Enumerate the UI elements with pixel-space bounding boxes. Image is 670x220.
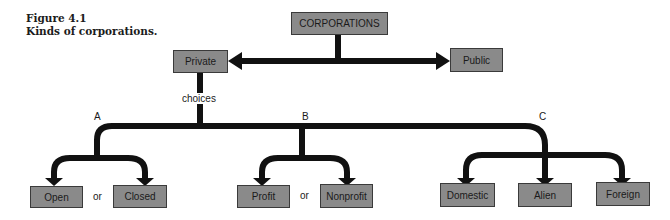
node-label: Alien [534,190,556,201]
label-branch-a: A [94,111,101,122]
node-nonprofit: Nonprofit [320,184,373,208]
node-label: Foreign [606,189,640,200]
arrowhead-open [45,178,63,186]
label-branch-b: B [302,111,309,122]
label-or-a: or [93,191,102,202]
branch-a-split [54,158,145,180]
node-open: Open [30,186,83,208]
node-label: Public [463,55,490,66]
arrowhead-private [228,52,242,70]
node-profit: Profit [237,185,290,208]
branch-b-split [262,158,347,180]
node-foreign: Foreign [596,182,650,206]
node-corporations: CORPORATIONS [291,12,388,35]
node-closed: Closed [113,185,167,208]
label-or-b: or [300,190,309,201]
node-private: Private [173,50,228,73]
node-label: Nonprofit [326,191,367,202]
node-label: Open [44,192,68,203]
node-public: Public [450,48,503,72]
node-alien: Alien [518,183,572,207]
label-choices: choices [182,93,216,104]
node-domestic: Domestic [440,183,495,207]
node-label: Private [185,56,216,67]
node-label: CORPORATIONS [299,18,379,29]
node-label: Closed [124,191,155,202]
label-branch-c: C [539,111,546,122]
arrowhead-public [436,52,450,70]
node-label: Domestic [447,190,489,201]
node-label: Profit [252,191,275,202]
